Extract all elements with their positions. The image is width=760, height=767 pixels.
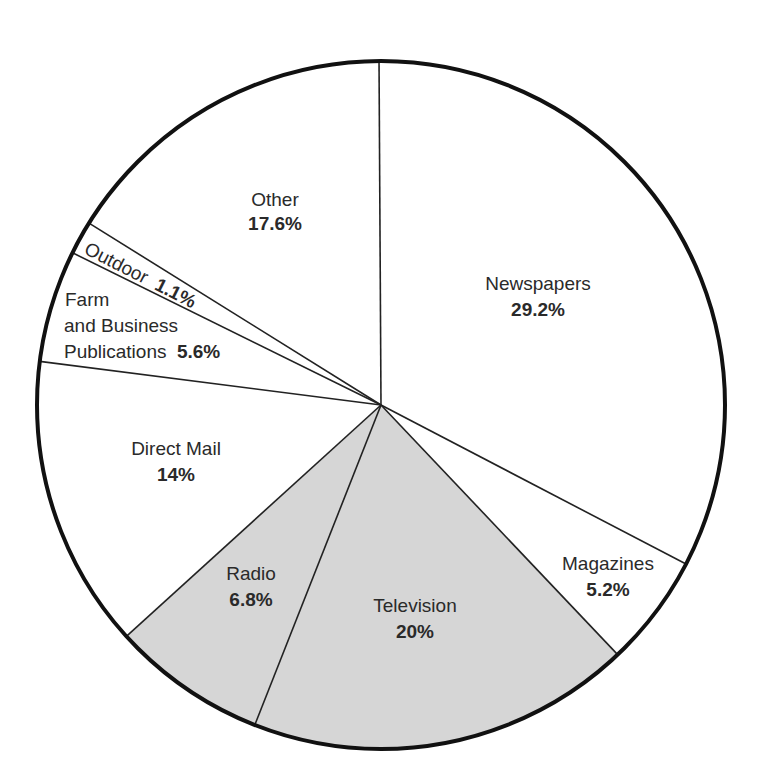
label-farm-pct: 5.6% [177,341,220,362]
svg-text:Publications 5.6%: Publications 5.6% [64,341,220,362]
label-magazines-pct: 5.2% [586,579,629,600]
label-direct-mail-pct: 14% [157,464,195,485]
label-newspapers-pct: 29.2% [511,299,565,320]
label-farm-line2: and Business [64,315,178,336]
pie-chart: Other 17.6% Newspapers 29.2% Outdoor 1.1… [0,0,760,767]
label-newspapers-name: Newspapers [485,273,591,294]
label-farm-line3: Publications [64,341,166,362]
label-other-pct: 17.6% [248,213,302,234]
label-magazines-name: Magazines [562,553,654,574]
label-other-name: Other [251,189,299,210]
label-farm-line1: Farm [65,289,109,310]
label-radio-pct: 6.8% [229,589,272,610]
label-television-name: Television [373,595,456,616]
label-television-pct: 20% [396,621,434,642]
label-radio-name: Radio [226,563,276,584]
label-direct-mail-name: Direct Mail [131,438,221,459]
